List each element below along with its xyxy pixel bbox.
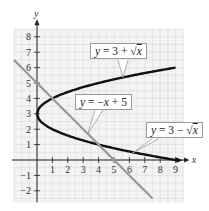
label-text: = − <box>85 96 104 108</box>
svg-text:4: 4 <box>26 93 31 104</box>
label-text: = 3 − √ <box>156 124 193 136</box>
svg-text:2: 2 <box>65 164 70 175</box>
svg-text:3: 3 <box>81 164 86 175</box>
label-text: + 5 <box>109 96 127 108</box>
svg-text:7: 7 <box>26 47 31 58</box>
label-var: x <box>193 124 198 136</box>
label-upper-curve: y = 3 + √x <box>90 43 147 59</box>
label-line: y = −x + 5 <box>75 94 132 110</box>
svg-text:8: 8 <box>158 164 163 175</box>
label-text: = 3 + √ <box>100 45 137 57</box>
svg-text:1: 1 <box>26 139 31 150</box>
svg-text:8: 8 <box>26 31 31 42</box>
svg-text:5: 5 <box>26 78 31 89</box>
svg-text:7: 7 <box>142 164 147 175</box>
svg-text:1: 1 <box>50 164 55 175</box>
svg-text:5: 5 <box>112 164 117 175</box>
svg-text:9: 9 <box>173 164 178 175</box>
svg-text:2: 2 <box>26 124 31 135</box>
svg-text:−2: −2 <box>20 185 31 196</box>
label-lower-curve: y = 3 − √x <box>146 122 203 138</box>
svg-text:3: 3 <box>26 108 31 119</box>
label-var: x <box>137 45 142 57</box>
svg-text:x: x <box>191 154 197 165</box>
svg-text:−1: −1 <box>20 170 31 181</box>
svg-text:y: y <box>33 8 39 19</box>
svg-text:4: 4 <box>96 164 101 175</box>
